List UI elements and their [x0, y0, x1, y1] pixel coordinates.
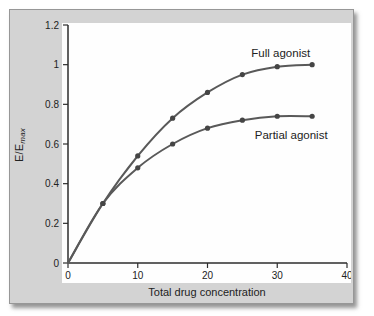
y-tick-label: 0.6: [45, 139, 59, 150]
data-point-marker: [170, 116, 175, 121]
x-tick-label: 40: [341, 270, 351, 281]
data-point-marker: [135, 153, 140, 158]
data-point-marker: [275, 64, 280, 69]
data-point-marker: [240, 72, 245, 77]
data-point-marker: [275, 114, 280, 119]
y-tick-label: 1.2: [45, 20, 59, 31]
data-point-marker: [170, 141, 175, 146]
series-label-full-agonist: Full agonist: [251, 47, 311, 59]
data-point-marker: [135, 165, 140, 170]
data-point-marker: [100, 201, 105, 206]
data-point-marker: [310, 62, 315, 67]
data-point-marker: [205, 126, 210, 131]
data-point-marker: [240, 118, 245, 123]
y-axis-label: E/Emax: [13, 85, 28, 205]
figure-panel: 00.20.40.60.811.2010203040Full agonistPa…: [9, 9, 354, 304]
x-tick-label: 0: [65, 270, 71, 281]
y-tick-label: 0: [53, 258, 59, 269]
x-tick-label: 10: [132, 270, 144, 281]
plot-background: [62, 23, 351, 283]
x-axis-label: Total drug concentration: [62, 286, 352, 298]
figure-page: 00.20.40.60.811.2010203040Full agonistPa…: [0, 0, 374, 316]
data-point-marker: [310, 114, 315, 119]
y-tick-label: 0.8: [45, 99, 59, 110]
y-axis-label-main: E/E: [13, 144, 25, 162]
y-axis-label-subscript: max: [18, 128, 27, 144]
y-tick-label: 0.4: [45, 178, 59, 189]
data-point-marker: [205, 90, 210, 95]
series-label-partial-agonist: Partial agonist: [255, 129, 329, 141]
y-tick-label: 0.2: [45, 218, 59, 229]
dose-response-chart: 00.20.40.60.811.2010203040Full agonistPa…: [10, 10, 351, 301]
x-tick-label: 20: [202, 270, 214, 281]
x-tick-label: 30: [272, 270, 284, 281]
y-tick-label: 1: [53, 59, 59, 70]
